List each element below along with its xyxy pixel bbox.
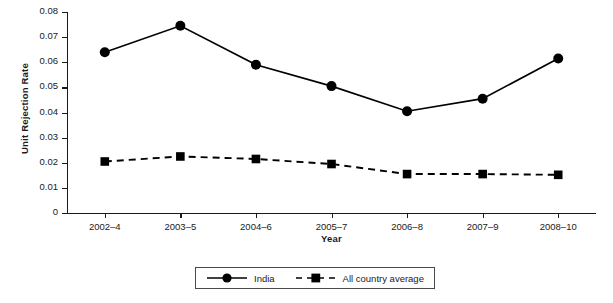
y-tick-label: 0.08	[40, 5, 59, 16]
data-point[interactable]	[251, 60, 261, 70]
series-layer	[67, 12, 596, 213]
y-tick-label: 0.04	[40, 106, 59, 117]
x-tick	[332, 213, 333, 218]
data-point[interactable]	[175, 21, 185, 31]
y-tick-label: 0.02	[40, 156, 59, 167]
x-axis-title: Year	[67, 233, 596, 244]
chart-legend: India All country average	[195, 267, 435, 289]
x-tick	[558, 213, 559, 218]
data-point[interactable]	[327, 160, 336, 169]
legend-label-all-country-average: All country average	[343, 273, 424, 284]
x-tick	[105, 213, 106, 218]
y-tick-label: 0.03	[40, 131, 59, 142]
x-tick-label: 2007–9	[467, 221, 499, 232]
x-tick	[407, 213, 408, 218]
y-tick: 0	[62, 213, 67, 214]
data-point[interactable]	[403, 170, 412, 179]
legend-key-dashed-square-icon	[295, 272, 337, 284]
legend-key-solid-circle-icon	[206, 272, 248, 284]
data-point[interactable]	[176, 152, 185, 161]
x-tick-label: 2003–5	[165, 221, 197, 232]
x-tick-label: 2004–6	[240, 221, 272, 232]
y-tick-label: 0.07	[40, 30, 59, 41]
x-tick	[180, 213, 181, 218]
y-tick-label: 0.06	[40, 55, 59, 66]
x-tick	[483, 213, 484, 218]
legend-entry-india[interactable]: India	[206, 272, 275, 284]
y-tick-label: 0.01	[40, 181, 59, 192]
data-point[interactable]	[100, 157, 109, 166]
data-point[interactable]	[554, 171, 563, 180]
x-tick-label: 2005–7	[316, 221, 348, 232]
data-point[interactable]	[100, 47, 110, 57]
data-point[interactable]	[402, 106, 412, 116]
chart-figure: Unit Rejection Rate 00.010.020.030.040.0…	[0, 0, 613, 303]
data-point[interactable]	[478, 170, 487, 179]
data-point[interactable]	[252, 155, 261, 164]
x-tick-label: 2006–8	[391, 221, 423, 232]
data-point[interactable]	[478, 94, 488, 104]
series-line-india	[105, 26, 558, 111]
x-tick-label: 2008–10	[540, 221, 577, 232]
data-point[interactable]	[553, 53, 563, 63]
x-tick	[256, 213, 257, 218]
y-tick-label: 0.05	[40, 80, 59, 91]
y-tick-label: 0	[53, 206, 58, 217]
legend-entry-all-country-average[interactable]: All country average	[295, 272, 424, 284]
x-tick-label: 2002–4	[89, 221, 121, 232]
data-point[interactable]	[327, 81, 337, 91]
plot-area: 00.010.020.030.040.050.060.070.08 2002–4…	[67, 12, 596, 213]
y-axis-title: Unit Rejection Rate	[19, 29, 30, 189]
legend-label-india: India	[254, 273, 275, 284]
